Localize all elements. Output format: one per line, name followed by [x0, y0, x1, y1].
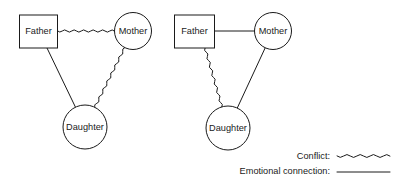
legend-item-emotional-connection: Emotional connection:: [240, 166, 390, 176]
node-mother-right[interactable]: Mother: [255, 13, 292, 50]
legend-item-conflict: Conflict:: [297, 151, 390, 161]
node-label-mother-left: Mother: [119, 26, 148, 36]
link-emotional-father-daughter-left: [47, 48, 75, 107]
node-father-left[interactable]: Father: [20, 15, 58, 48]
right-genogram: Father Mother Daughter: [175, 13, 292, 151]
legend-label-emotional-connection: Emotional connection:: [240, 166, 330, 176]
link-emotional-mother-daughter-right: [237, 48, 265, 108]
legend: Conflict: Emotional connection:: [240, 151, 390, 176]
node-label-father-right: Father: [181, 26, 208, 36]
legend-label-conflict: Conflict:: [297, 151, 330, 161]
node-daughter-right[interactable]: Daughter: [206, 106, 250, 150]
node-mother-left[interactable]: Mother: [115, 13, 152, 50]
link-conflict-father-mother-left: [58, 30, 115, 32]
node-label-father-left: Father: [25, 26, 52, 36]
node-father-right[interactable]: Father: [175, 15, 215, 48]
left-genogram: Father Mother Daughter: [20, 13, 152, 150]
genogram-figure: Father Mother Daughter Father Mother: [0, 0, 405, 188]
node-label-daughter-right: Daughter: [209, 123, 247, 133]
link-conflict-mother-daughter-left: [95, 48, 125, 108]
legend-sample-wavy-line: [337, 155, 390, 158]
node-daughter-left[interactable]: Daughter: [63, 105, 107, 149]
link-conflict-father-daughter-right: [204, 48, 222, 107]
node-label-mother-right: Mother: [259, 26, 288, 36]
node-label-daughter-left: Daughter: [66, 122, 104, 132]
